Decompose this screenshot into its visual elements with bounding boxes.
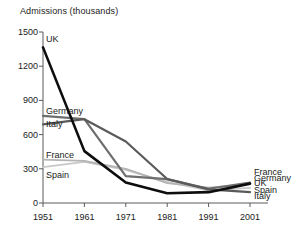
series-label-italy: Italy bbox=[46, 119, 63, 129]
x-axis-tick-label: 1951 bbox=[33, 212, 53, 222]
x-axis-tick-label: 1961 bbox=[74, 212, 94, 222]
series-line-italy bbox=[43, 119, 250, 192]
x-axis-tick-label: 1971 bbox=[116, 212, 136, 222]
x-axis-tick-label: 1991 bbox=[199, 212, 219, 222]
series-label-france: France bbox=[46, 150, 74, 160]
line-chart: Admissions (thousands) 03006009001200150… bbox=[0, 0, 297, 241]
chart-plot-area bbox=[0, 0, 297, 241]
series-label-spain: Spain bbox=[46, 170, 69, 180]
series-label-germany: Germany bbox=[46, 106, 83, 116]
x-axis-tick-label: 1981 bbox=[157, 212, 177, 222]
x-axis-tick-label: 2001 bbox=[240, 212, 260, 222]
series-label-uk: UK bbox=[46, 34, 59, 44]
series-label-italy: Italy bbox=[254, 191, 271, 201]
